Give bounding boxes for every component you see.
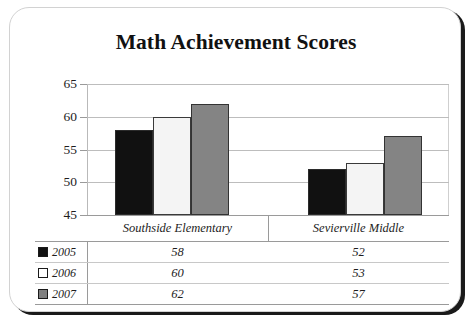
category-label-1: Sevierville Middle <box>268 216 449 241</box>
legend-cell-2005: 2005 <box>35 242 87 262</box>
table-row: 2007 62 57 <box>35 284 449 305</box>
cell-2005-sevierville: 52 <box>268 242 449 262</box>
bar-2006-1 <box>346 163 384 215</box>
y-tick-label-65: 65 <box>64 76 78 92</box>
chart-title: Math Achievement Scores <box>10 30 462 55</box>
gray-swatch-icon <box>38 289 48 299</box>
table-row: 2005 58 52 <box>35 242 449 263</box>
bar-2005-0 <box>115 130 153 215</box>
cell-2005-southside: 58 <box>87 242 268 262</box>
y-tick-label-45: 45 <box>64 207 78 223</box>
bar-2006-0 <box>153 117 191 215</box>
legend-cell-2006: 2006 <box>35 263 87 283</box>
legend-cell-2007: 2007 <box>35 284 87 304</box>
bar-2007-1 <box>384 136 422 215</box>
cell-2007-southside: 62 <box>87 284 268 304</box>
table-row: 2006 60 53 <box>35 263 449 284</box>
cell-2006-sevierville: 53 <box>268 263 449 283</box>
category-label-0: Southside Elementary <box>87 216 268 241</box>
cell-2007-sevierville: 57 <box>268 284 449 304</box>
legend-label-2006: 2006 <box>52 266 76 281</box>
y-tick-60 <box>80 117 87 118</box>
black-swatch-icon <box>38 247 48 257</box>
cell-2006-southside: 60 <box>87 263 268 283</box>
y-tick-50 <box>80 182 87 183</box>
bar-2005-1 <box>308 169 346 215</box>
bar-group-1 <box>268 84 449 215</box>
y-tick-55 <box>80 150 87 151</box>
table-column-divider <box>268 216 269 242</box>
bar-2007-0 <box>191 104 229 215</box>
data-table: 2005 58 52 2006 60 53 2007 62 57 <box>35 241 449 304</box>
chart-card: Math Achievement Scores 4550556065 South… <box>9 7 461 312</box>
legend-label-2005: 2005 <box>52 245 76 260</box>
plot-area: 4550556065 <box>87 84 449 215</box>
white-swatch-icon <box>38 268 48 278</box>
y-tick-label-55: 55 <box>64 141 78 157</box>
y-tick-label-60: 60 <box>64 108 78 124</box>
bar-group-0 <box>87 84 268 215</box>
y-tick-45 <box>80 215 87 216</box>
y-tick-label-50: 50 <box>64 174 78 190</box>
y-tick-65 <box>80 84 87 85</box>
legend-label-2007: 2007 <box>52 287 76 302</box>
